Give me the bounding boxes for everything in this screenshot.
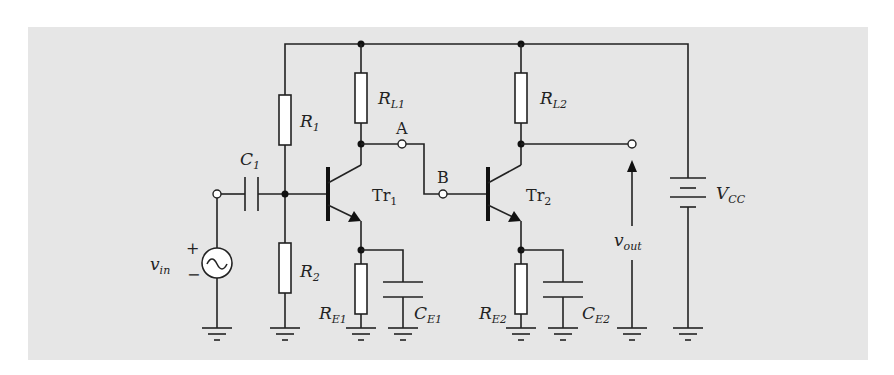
- resistor-re1: RE1: [318, 264, 367, 328]
- vin-label: vin: [150, 254, 170, 277]
- minus-sign: −: [187, 265, 200, 284]
- capacitor-ce1: CE1: [361, 250, 442, 328]
- node-b-terminal: [439, 190, 447, 198]
- vout-arrow: vout: [614, 160, 642, 328]
- ground-icon: [346, 328, 376, 340]
- rl2-label: RL2: [539, 88, 567, 111]
- input-wire: [221, 191, 328, 198]
- battery-vcc: VCC: [670, 178, 746, 328]
- vcc-label: VCC: [716, 183, 746, 206]
- tr1-label: Tr1: [372, 186, 397, 208]
- node-b-label: B: [437, 168, 449, 187]
- ground-icon: [617, 328, 647, 340]
- rl1-label: RL1: [377, 88, 405, 111]
- c1-label: C1: [240, 149, 260, 172]
- ground-icon: [388, 328, 418, 340]
- capacitor-ce2: CE2: [521, 250, 610, 328]
- ground-icon: [548, 328, 578, 340]
- r1-label: R1: [299, 111, 320, 134]
- ground-icon: [506, 328, 536, 340]
- output-terminal: [628, 140, 636, 148]
- r2-label: R2: [299, 261, 320, 284]
- ce1-label: CE1: [414, 303, 442, 326]
- re1-label: RE1: [318, 303, 347, 326]
- resistor-re2: RE2: [478, 264, 527, 328]
- ce2-label: CE2: [582, 303, 610, 326]
- plus-sign: +: [186, 239, 199, 258]
- resistor-r1: R1: [279, 95, 320, 243]
- re2-label: RE2: [478, 303, 507, 326]
- input-terminal: [213, 190, 221, 198]
- ground-icon: [202, 328, 232, 340]
- resistor-rl2: RL2: [515, 44, 567, 144]
- output-wire: [521, 140, 636, 148]
- vcc-rail: [285, 41, 688, 179]
- node-a-label: A: [395, 119, 408, 138]
- ac-voltage-source-vin: + − vin: [150, 198, 232, 328]
- transistor-tr1: Tr1: [328, 141, 397, 265]
- emitter-arrow-icon: [348, 211, 361, 222]
- transistor-tr2: Tr2: [488, 141, 551, 265]
- capacitor-c1: C1: [240, 149, 260, 211]
- node-a-terminal: [398, 140, 406, 148]
- arrow-up-icon: [627, 160, 637, 172]
- resistor-r2: R2: [279, 243, 320, 328]
- ground-icon: [673, 328, 703, 340]
- vout-label: vout: [614, 230, 642, 253]
- emitter-arrow-icon: [508, 211, 521, 222]
- circuit-schematic: R1 R2 C1 + − vin: [0, 0, 894, 375]
- tr2-label: Tr2: [526, 186, 551, 208]
- ground-icon: [270, 328, 300, 340]
